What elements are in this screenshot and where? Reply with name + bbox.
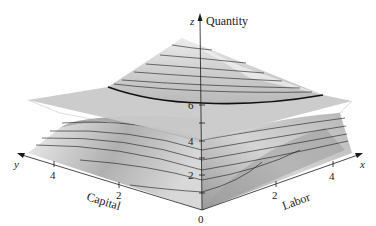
x-tick-4: 4: [329, 170, 335, 182]
y-axis-name: y: [13, 158, 19, 170]
x-tick-2: 2: [272, 189, 278, 201]
origin-label: 0: [198, 213, 204, 225]
x-axis-title: Labor: [280, 190, 312, 213]
z-tick-4: 4: [188, 135, 194, 147]
z-tick-6: 6: [188, 99, 194, 111]
upper-surface: [108, 38, 323, 104]
z-tick-2: 2: [188, 169, 194, 181]
surface-plot-figure: z Quantity 6 4 2 y 4 2 Capital x 2 4 Lab…: [0, 0, 376, 226]
y-tick-4: 4: [50, 169, 56, 181]
x-axis-name: x: [359, 158, 365, 170]
z-axis-name: z: [189, 15, 195, 27]
z-axis-arrow-icon: [198, 13, 203, 21]
surface-plot-svg: z Quantity 6 4 2 y 4 2 Capital x 2 4 Lab…: [0, 0, 376, 226]
z-axis-title: Quantity: [206, 14, 248, 28]
